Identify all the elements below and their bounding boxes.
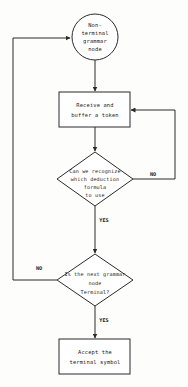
node-start-line-1: Non-: [88, 22, 102, 28]
node-receive-buffer-token[interactable]: [59, 92, 130, 127]
node-start-line-3: grammar: [83, 38, 107, 45]
edge-label-terminal-yes: YES: [99, 317, 108, 323]
flowchart-svg: Non- terminal grammar node Receive and b…: [0, 0, 188, 387]
node-recognize-line-4: to use: [85, 192, 104, 198]
connector-recognize-no-loop: [131, 110, 175, 179]
node-recognize-line-2: which deduction: [71, 176, 119, 182]
node-terminal-line-1: Is the next grammar: [64, 271, 125, 278]
edge-label-recognize-no: NO: [150, 171, 156, 177]
node-start-nonterminal-grammar-node[interactable]: [72, 14, 118, 60]
edge-label-recognize-yes: YES: [99, 217, 108, 223]
node-recognize-line-3: formula: [84, 184, 107, 190]
node-start-line-2: terminal: [81, 30, 108, 36]
node-receive-line-1: Receive and: [76, 102, 113, 108]
node-terminal-line-2: node: [89, 280, 102, 286]
node-terminal-line-3: Terminal?: [81, 289, 110, 295]
node-accept-terminal-symbol[interactable]: [59, 339, 130, 374]
node-accept-line-2: terminal symbol: [70, 359, 121, 366]
node-start-line-4: node: [88, 46, 102, 52]
node-receive-line-2: buffer a token: [71, 112, 119, 118]
flowchart-canvas: Non- terminal grammar node Receive and b…: [0, 0, 188, 387]
connector-terminal-no-loop: [13, 38, 70, 280]
edge-label-terminal-no: NO: [36, 265, 42, 271]
node-recognize-line-1: Can we recognize: [69, 168, 120, 175]
node-accept-line-1: Accept the: [78, 349, 112, 356]
